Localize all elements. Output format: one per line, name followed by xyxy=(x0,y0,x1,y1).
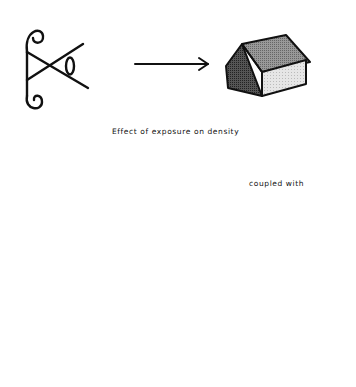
arrow-right-top xyxy=(135,58,208,70)
film-reel-eye-symbol xyxy=(27,31,88,108)
diagram-canvas xyxy=(0,0,356,387)
small-shaded-house xyxy=(226,35,310,96)
effect-label: Effect of exposure on density xyxy=(112,127,239,136)
coupled-label: coupled with xyxy=(249,179,304,188)
